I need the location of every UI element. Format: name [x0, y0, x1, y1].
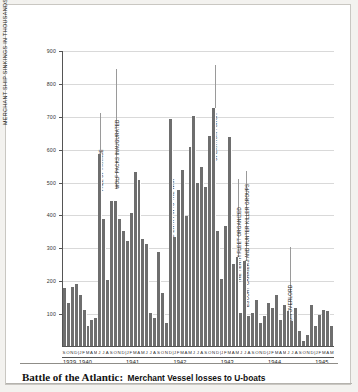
year-label: 1940 [79, 359, 92, 365]
caption-divider [20, 363, 338, 364]
y-tick-label: 100 [28, 311, 56, 317]
year-label: 1941 [126, 359, 139, 365]
y-tick-label: 900 [28, 48, 56, 54]
y-tick-label: 700 [28, 114, 56, 120]
y-tick-label: 600 [28, 147, 56, 153]
y-tick-label: 500 [28, 180, 56, 186]
y-axis-title: MERCHANT SHIP SINKINGS IN THOUSANDS OF T… [2, 0, 8, 125]
bar [330, 326, 334, 346]
x-axis-month-labels: SOND|JFMAMJJASOND|JFMAMJJASOND|JFMAMJJAS… [62, 348, 334, 358]
chart-figure: MERCHANT SHIP SINKINGS IN THOUSANDS OF T… [5, 4, 351, 385]
year-label: 1945 [315, 359, 328, 365]
y-tick-label: 400 [28, 212, 56, 218]
bar-series [63, 51, 334, 346]
caption-subtitle: Merchant Vessel losses to U-boats [128, 373, 266, 383]
plot-area: FALL OF FRANCEWOLF PACKS INAUGURATEDUS E… [62, 51, 334, 347]
y-tick-label: 300 [28, 245, 56, 251]
year-label: 1939 [63, 359, 76, 365]
year-label: 1944 [268, 359, 281, 365]
caption-bottom-divider [6, 383, 352, 384]
month-label: M [330, 348, 334, 357]
y-tick-label: 800 [28, 81, 56, 87]
caption-title: Battle of the Atlantic: [22, 371, 123, 383]
year-label: 1942 [173, 359, 186, 365]
year-label: 1943 [221, 359, 234, 365]
y-tick-label: 200 [28, 278, 56, 284]
